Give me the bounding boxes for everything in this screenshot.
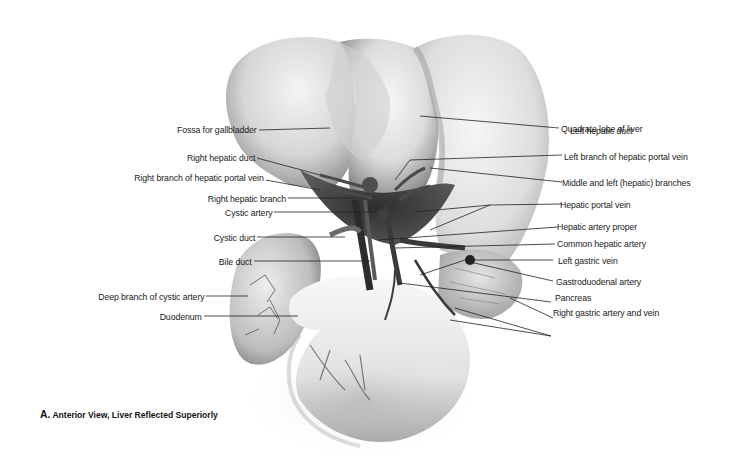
label-cystic-artery: Cystic artery — [225, 207, 272, 218]
label-right-hepatic-branch: Right hepatic branch — [208, 193, 286, 204]
label-hepatic-artery-proper: Hepatic artery proper — [557, 221, 637, 232]
anatomy-figure: Fossa for gallbladder Right hepatic duct… — [0, 0, 732, 470]
caption-text: Anterior View, Liver Reflected Superiorl… — [52, 409, 217, 420]
label-gastroduodenal-artery: Gastroduodenal artery — [556, 276, 641, 287]
label-right-branch-hepatic-portal-vein: Right branch of hepatic portal vein — [135, 172, 264, 183]
figure-caption: A. Anterior View, Liver Reflected Superi… — [40, 408, 218, 420]
label-right-hepatic-duct: Right hepatic duct — [187, 152, 255, 163]
label-right-gastric-artery-vein: Right gastric artery and vein — [553, 307, 659, 318]
label-hepatic-portal-vein: Hepatic portal vein — [560, 199, 631, 210]
label-fossa-for-gallbladder: Fossa for gallbladder — [177, 124, 257, 135]
label-cystic-duct: Cystic duct — [213, 232, 255, 243]
label-common-hepatic-artery: Common hepatic artery — [557, 238, 646, 249]
label-left-branch-hepatic-portal-vein: Left branch of hepatic portal vein — [564, 151, 688, 162]
liver-gallbladder-illustration — [0, 0, 732, 470]
label-duodenum: Duodenum — [160, 311, 202, 322]
label-left-hepatic-duct-visible: Left hepatic duct — [570, 125, 633, 136]
caption-letter: A. — [40, 408, 50, 420]
label-deep-branch-cystic-artery: Deep branch of cystic artery — [98, 291, 204, 302]
label-middle-left-hepatic-branches: Middle and left (hepatic) branches — [562, 177, 691, 188]
label-bile-duct: Bile duct — [219, 256, 252, 267]
label-pancreas: Pancreas — [555, 292, 591, 303]
label-left-gastric-vein: Left gastric vein — [558, 255, 618, 266]
